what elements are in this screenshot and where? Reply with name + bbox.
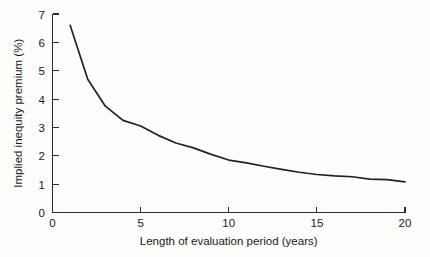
- x-axis-ticks: [53, 207, 406, 213]
- chart-figure: 7 6 5 4 3 2 1 0 0 5 10 15 20 Length of e…: [0, 0, 430, 257]
- x-tick-label: 20: [399, 217, 412, 229]
- data-series-line: [70, 25, 405, 182]
- x-tick-label: 0: [49, 217, 55, 229]
- x-tick-label: 15: [311, 217, 324, 229]
- y-tick-label: 3: [39, 122, 45, 134]
- y-tick-label: 0: [39, 207, 45, 219]
- y-tick-label: 7: [39, 9, 45, 21]
- y-axis-tick-labels: 7 6 5 4 3 2 1 0: [39, 9, 46, 220]
- y-tick-label: 6: [39, 37, 45, 49]
- x-tick-label: 5: [137, 217, 143, 229]
- x-axis-tick-labels: 0 5 10 15 20: [49, 217, 411, 229]
- y-axis-title: Implied inequity premium (%): [12, 39, 24, 188]
- x-tick-label: 10: [222, 217, 235, 229]
- x-axis-title: Length of evaluation period (years): [140, 235, 318, 247]
- y-tick-label: 5: [39, 65, 45, 77]
- line-chart: 7 6 5 4 3 2 1 0 0 5 10 15 20 Length of e…: [0, 0, 430, 257]
- y-tick-label: 4: [39, 94, 46, 106]
- y-tick-label: 1: [39, 179, 45, 191]
- y-tick-label: 2: [39, 150, 45, 162]
- y-axis-ticks: [53, 14, 59, 213]
